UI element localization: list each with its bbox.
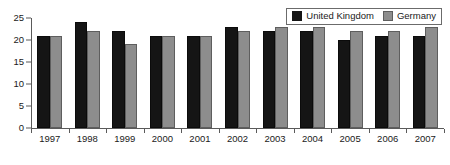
y-axis-tick-label: 5 xyxy=(0,101,24,111)
bar-group xyxy=(413,18,438,128)
bar-united-kingdom xyxy=(300,31,313,128)
bar-germany xyxy=(350,31,363,128)
bar-germany xyxy=(87,31,100,128)
bar-germany xyxy=(50,36,63,128)
black-square-icon xyxy=(292,11,302,21)
bar-united-kingdom xyxy=(225,27,238,128)
legend: United KingdomGermany xyxy=(286,8,442,25)
y-axis-tick-mark xyxy=(26,84,31,85)
bar-group xyxy=(37,18,62,128)
y-axis-tick-mark xyxy=(26,106,31,107)
bar-united-kingdom xyxy=(413,36,426,128)
bar-united-kingdom xyxy=(112,31,125,128)
x-axis-tick-label: 2001 xyxy=(181,134,219,144)
bar-chart: 0510152025 19971998199920002001200220032… xyxy=(0,0,450,165)
bar-united-kingdom xyxy=(263,31,276,128)
x-axis-tick-mark xyxy=(256,129,257,133)
y-axis-tick-labels: 0510152025 xyxy=(0,13,24,128)
x-axis-tick-mark xyxy=(331,129,332,133)
bar-united-kingdom xyxy=(37,36,50,128)
gray-square-icon xyxy=(383,11,393,21)
x-axis-tick-label: 2007 xyxy=(406,134,444,144)
legend-entry: United Kingdom xyxy=(292,11,374,21)
bar-germany xyxy=(275,27,288,128)
bar-germany xyxy=(125,44,138,128)
bar-group xyxy=(338,18,363,128)
x-axis-tick-mark xyxy=(144,129,145,133)
x-axis-tick-label: 2000 xyxy=(144,134,182,144)
bar-group xyxy=(225,18,250,128)
legend-label: Germany xyxy=(397,11,436,21)
bar-group xyxy=(75,18,100,128)
bar-group xyxy=(375,18,400,128)
bar-united-kingdom xyxy=(150,36,163,128)
x-axis-tick-mark xyxy=(219,129,220,133)
bar-united-kingdom xyxy=(375,36,388,128)
y-axis-tick-mark xyxy=(26,62,31,63)
bar-group xyxy=(187,18,212,128)
x-axis-tick-label: 1998 xyxy=(69,134,107,144)
bar-group xyxy=(300,18,325,128)
x-axis-tick-label: 2002 xyxy=(219,134,257,144)
x-axis-tick-mark xyxy=(444,129,445,133)
x-axis-tick-label: 2003 xyxy=(256,134,294,144)
y-axis-tick-label: 0 xyxy=(0,123,24,133)
y-axis-tick-label: 25 xyxy=(0,13,24,23)
x-axis-tick-mark xyxy=(406,129,407,133)
x-axis-tick-mark xyxy=(181,129,182,133)
bar-united-kingdom xyxy=(338,40,351,128)
bar-group xyxy=(150,18,175,128)
x-axis-tick-mark xyxy=(69,129,70,133)
x-axis-tick-label: 2004 xyxy=(294,134,332,144)
bar-germany xyxy=(238,31,251,128)
y-axis-tick-label: 10 xyxy=(0,79,24,89)
bar-germany xyxy=(425,27,438,128)
y-axis-tick-label: 20 xyxy=(0,35,24,45)
x-axis-tick-label: 1999 xyxy=(106,134,144,144)
bar-group xyxy=(263,18,288,128)
x-axis-tick-mark xyxy=(369,129,370,133)
bar-germany xyxy=(162,36,175,128)
x-axis-tick-mark xyxy=(106,129,107,133)
legend-label: United Kingdom xyxy=(306,11,374,21)
x-axis-tick-labels: 1997199819992000200120022003200420052006… xyxy=(31,134,444,148)
y-axis-tick-label: 15 xyxy=(0,57,24,67)
bar-united-kingdom xyxy=(75,22,88,128)
bar-germany xyxy=(388,31,401,128)
x-axis-tick-mark xyxy=(294,129,295,133)
bar-united-kingdom xyxy=(187,36,200,128)
x-axis-line xyxy=(31,128,444,129)
legend-entry: Germany xyxy=(383,11,436,21)
bars-layer xyxy=(31,18,444,128)
bar-germany xyxy=(200,36,213,128)
bar-group xyxy=(112,18,137,128)
y-axis-tick-mark xyxy=(26,18,31,19)
x-axis-tick-label: 1997 xyxy=(31,134,69,144)
y-axis-tick-mark xyxy=(26,40,31,41)
x-axis-tick-label: 2005 xyxy=(331,134,369,144)
x-axis-tick-mark xyxy=(31,129,32,133)
x-axis-tick-label: 2006 xyxy=(369,134,407,144)
bar-germany xyxy=(313,27,326,128)
